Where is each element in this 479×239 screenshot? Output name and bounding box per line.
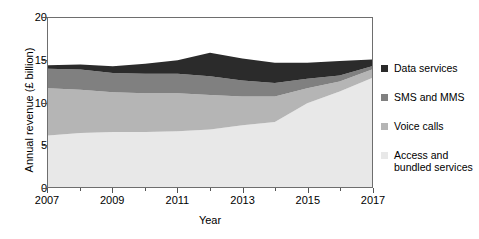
x-tick-mark	[112, 188, 113, 193]
legend-item: Access and bundled services	[381, 149, 477, 173]
legend-swatch-icon	[381, 123, 388, 130]
legend-label: SMS and MMS	[394, 91, 465, 103]
y-tick-label: 15	[3, 55, 47, 65]
area-series-group	[48, 18, 372, 187]
x-tick-mark	[177, 188, 178, 193]
legend-label: Voice calls	[394, 120, 444, 132]
legend-item: Data services	[381, 62, 477, 74]
x-tick-label: 2011	[166, 194, 190, 206]
y-tick-label: 10	[3, 98, 47, 108]
x-tick-label: 2009	[100, 194, 124, 206]
legend-label: Data services	[394, 62, 458, 74]
x-tick-mark	[373, 188, 374, 193]
legend-label: Access and bundled services	[394, 149, 477, 173]
x-tick-mark	[145, 188, 146, 191]
y-tick-label: 5	[3, 140, 47, 150]
x-tick-mark	[275, 188, 276, 191]
y-tick-label: 20	[3, 12, 47, 22]
x-tick-mark	[243, 188, 244, 193]
legend-swatch-icon	[381, 94, 388, 101]
x-tick-mark	[47, 188, 48, 193]
x-tick-label: 2013	[230, 194, 254, 206]
plot-area	[47, 17, 373, 188]
x-tick-label: 2007	[35, 194, 59, 206]
x-tick-mark	[210, 188, 211, 191]
x-tick-label: 2017	[361, 194, 385, 206]
x-tick-mark	[308, 188, 309, 193]
x-axis-title: Year	[47, 214, 373, 226]
x-tick-label: 2015	[296, 194, 320, 206]
chart-legend: Data servicesSMS and MMSVoice callsAcces…	[381, 62, 477, 190]
stacked-area-chart: Annual revenue (£ billion) 05101520 2007…	[0, 0, 479, 239]
legend-item: SMS and MMS	[381, 91, 477, 103]
x-tick-mark	[80, 188, 81, 191]
legend-swatch-icon	[381, 152, 388, 159]
legend-swatch-icon	[381, 65, 388, 72]
legend-item: Voice calls	[381, 120, 477, 132]
x-tick-mark	[340, 188, 341, 191]
